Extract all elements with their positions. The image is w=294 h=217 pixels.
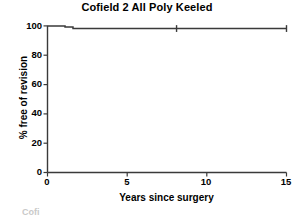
axes-group — [48, 26, 287, 173]
plot-canvas — [0, 0, 294, 217]
page-bleed-artifact: Cofi — [22, 207, 82, 216]
survival-curve — [48, 26, 287, 29]
survival-curve-figure: Cofield 2 All Poly Keeled % free of revi… — [0, 0, 294, 217]
